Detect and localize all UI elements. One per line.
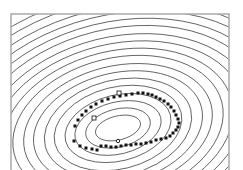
scatter-point (172, 132, 175, 135)
scatter-point (115, 146, 118, 149)
scatter-point (95, 103, 98, 106)
scatter-point (125, 144, 128, 147)
scatter-point (113, 96, 116, 99)
scatter-point (110, 146, 113, 149)
scatter-point (73, 140, 76, 143)
scatter-point (167, 103, 170, 106)
scatter-point (90, 106, 93, 109)
scatter-point (130, 144, 133, 147)
scatter-point (74, 125, 77, 128)
scatter-point (81, 114, 84, 117)
scatter-point (147, 93, 150, 96)
scatter-point (177, 118, 180, 121)
scatter-point (163, 100, 166, 103)
scatter-point (77, 119, 80, 122)
scatter-point (170, 106, 173, 109)
scatter-point (79, 145, 82, 148)
scatter-point (159, 98, 162, 101)
scatter-point (125, 94, 128, 97)
scatter-point (145, 142, 148, 145)
scatter-point (85, 110, 88, 113)
scatter-point (100, 145, 103, 148)
scatter-point (135, 143, 138, 146)
scatter-point (165, 137, 168, 140)
plot-canvas (0, 0, 243, 170)
scatter-point (140, 143, 143, 146)
scatter-point (151, 94, 154, 97)
contour-scatter-figure (0, 0, 243, 170)
scatter-point (169, 135, 172, 138)
scatter-point (173, 110, 176, 113)
scatter-point (107, 98, 110, 101)
scatter-point (177, 126, 180, 129)
scatter-point-open-square (92, 116, 96, 120)
scatter-point (120, 145, 123, 148)
scatter-point (91, 148, 94, 151)
scatter-point (150, 141, 153, 144)
scatter-point (131, 93, 134, 96)
scatter-point (155, 96, 158, 99)
scatter-point (105, 145, 108, 148)
scatter-point-open-square (117, 91, 121, 95)
scatter-point (96, 149, 99, 152)
center-marker (116, 139, 119, 142)
scatter-point (85, 147, 88, 150)
scatter-point (142, 92, 145, 95)
scatter-point (101, 100, 104, 103)
scatter-point (175, 129, 178, 132)
scatter-point (160, 138, 163, 141)
scatter-point (137, 92, 140, 95)
scatter-point (155, 139, 158, 142)
scatter-point (175, 114, 178, 117)
scatter-point (178, 122, 181, 125)
